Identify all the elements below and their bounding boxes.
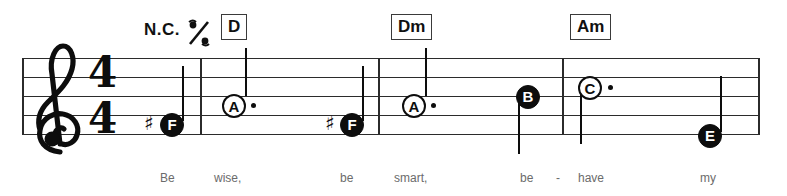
staff-left-edge — [22, 58, 24, 135]
chord-symbol-am[interactable]: Am — [570, 14, 611, 40]
lyric-syllable: my — [700, 172, 716, 184]
staff-line-1 — [22, 58, 760, 59]
note-stem — [182, 66, 184, 121]
notehead-c[interactable]: C — [578, 76, 602, 100]
notehead-a[interactable]: A — [222, 94, 246, 118]
staff-line-5 — [22, 134, 760, 135]
time-signature-numerator: 4 — [88, 52, 117, 94]
lyric-syllable: be — [340, 172, 353, 184]
notehead-f[interactable]: F — [340, 113, 364, 137]
no-chord-label: N.C. — [144, 21, 180, 38]
sharp-accidental-icon: ♯ — [325, 113, 335, 133]
notehead-a[interactable]: A — [402, 94, 426, 118]
staff-line-2 — [22, 77, 760, 78]
chord-symbol-dm[interactable]: Dm — [391, 14, 432, 40]
lyric-syllable: smart, — [394, 172, 427, 184]
sharp-accidental-icon: ♯ — [144, 113, 154, 133]
chord-symbol-d[interactable]: D — [221, 14, 247, 40]
sheet-music-staff-system: N.C. D Dm Am 4 4 ♯ F — [0, 0, 787, 196]
time-signature-denominator: 4 — [88, 98, 117, 140]
barline-end — [758, 58, 760, 135]
staff-line-4 — [22, 115, 760, 116]
notehead-e[interactable]: E — [698, 124, 722, 148]
augmentation-dot — [608, 85, 613, 90]
lyric-hyphen: - — [556, 172, 560, 184]
note-stem — [362, 66, 364, 121]
augmentation-dot — [251, 103, 256, 108]
staff-line-3 — [22, 96, 760, 97]
augmentation-dot — [431, 103, 436, 108]
notehead-b[interactable]: B — [516, 85, 540, 109]
notehead-f[interactable]: F — [160, 113, 184, 137]
lyric-syllable: Be — [160, 172, 175, 184]
barline-1 — [200, 58, 202, 135]
barline-2 — [378, 58, 380, 135]
measure-repeat-percent-icon — [186, 16, 212, 54]
lyric-syllable: wise, — [214, 172, 241, 184]
lyric-syllable: be — [520, 172, 533, 184]
note-stem — [425, 48, 427, 96]
lyric-syllable: have — [578, 172, 604, 184]
treble-clef-icon — [30, 38, 88, 163]
barline-3 — [562, 58, 564, 135]
note-stem — [720, 76, 722, 132]
note-stem — [245, 48, 247, 96]
